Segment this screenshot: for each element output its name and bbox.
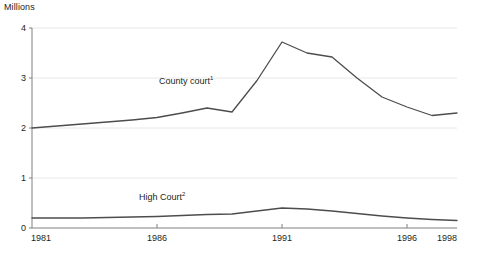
gridlines [32,28,457,178]
annotation-text: County court [159,76,210,86]
x-tick-label: 1998 [437,234,457,243]
series-annotation-label: High Court2 [139,191,185,202]
y-tick-label: 2 [4,124,26,133]
line-chart-plot [0,0,489,257]
series-line-high-court [32,208,457,221]
annotation-footnote-marker: 1 [210,75,213,81]
x-tick-label: 1986 [147,234,167,243]
series-lines [32,42,457,221]
y-tick-label: 3 [4,74,26,83]
y-tick-label: 1 [4,174,26,183]
y-tick-label: 4 [4,24,26,33]
x-tick-label: 1991 [272,234,292,243]
series-line-county-court [32,42,457,128]
series-annotation-label: County court1 [159,75,213,86]
y-tick-label: 0 [4,224,26,233]
x-tick-label: 1981 [31,234,51,243]
annotation-text: High Court [139,192,182,202]
chart-figure: Millions 01234 19811986199119961998 Coun… [0,0,489,257]
annotation-footnote-marker: 2 [182,191,185,197]
x-tick-label: 1996 [397,234,417,243]
